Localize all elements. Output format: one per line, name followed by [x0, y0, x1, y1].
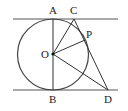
segment-op	[53, 40, 85, 54]
label-d: D	[104, 93, 112, 105]
label-p: P	[86, 28, 92, 40]
label-o: O	[41, 48, 49, 60]
label-c: C	[70, 4, 77, 16]
segment-oc	[53, 19, 74, 54]
point-o-dot	[51, 52, 54, 55]
geometry-diagram: A C P O B D	[0, 0, 128, 111]
label-a: A	[49, 4, 57, 16]
label-b: B	[49, 93, 56, 105]
